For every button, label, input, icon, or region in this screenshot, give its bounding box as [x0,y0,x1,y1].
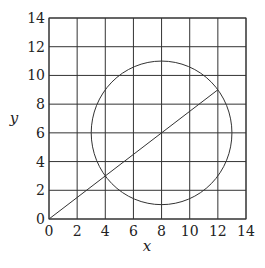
y-tick-label: 12 [27,39,45,55]
grid [49,18,246,219]
plot-frame [49,18,246,219]
y-tick-label: 2 [36,182,45,198]
y-tick-label: 14 [27,10,45,26]
x-tick-label: 4 [101,223,110,239]
x-tick-label: 14 [237,223,255,239]
y-tick-label: 10 [27,67,45,83]
y-axis-label: y [9,109,19,127]
y-tick-label: 0 [36,211,45,227]
x-tick-label: 6 [129,223,138,239]
x-tick-label: 12 [209,223,227,239]
chart: 02468101214 02468101214 x y [0,0,265,268]
x-tick-label: 8 [157,223,166,239]
y-tick-label: 6 [36,125,45,141]
plot-series [49,61,232,219]
x-tick-label: 0 [45,223,54,239]
x-tick-label: 10 [181,223,199,239]
y-tick-label: 8 [36,96,45,112]
x-tick-label: 2 [73,223,82,239]
y-tick-labels: 02468101214 [27,10,45,227]
x-axis-label: x [143,237,152,255]
y-tick-label: 4 [36,154,45,170]
